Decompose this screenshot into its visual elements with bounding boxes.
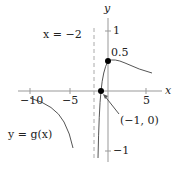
x-axis-label: x [165, 84, 171, 97]
tick-label-neg10: −10 [20, 94, 43, 107]
tick-label-5: 5 [143, 94, 150, 107]
y-axis-label: y [104, 2, 110, 15]
annotation-arrow [104, 95, 119, 114]
asymptote-label: x = −2 [43, 28, 82, 41]
curve-label: y = g(x) [8, 128, 52, 141]
plot-canvas [0, 0, 177, 169]
arrowhead-icon [103, 94, 108, 99]
point-root-label: (−1, 0) [120, 114, 159, 127]
point-max-label: 0.5 [111, 46, 129, 59]
point-root [98, 88, 104, 94]
tick-label-neg5: −5 [62, 94, 78, 107]
tick-label-1: 1 [113, 24, 120, 37]
tick-label-neg1: −1 [113, 144, 129, 157]
